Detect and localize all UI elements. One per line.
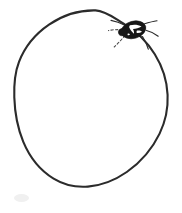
drawing-canvas: Hand-drawn egg with insect xyxy=(0,0,182,213)
egg-with-insect-illustration: Hand-drawn egg with insect xyxy=(0,0,182,213)
paper-background xyxy=(0,0,182,213)
paper-smudge xyxy=(14,194,29,202)
